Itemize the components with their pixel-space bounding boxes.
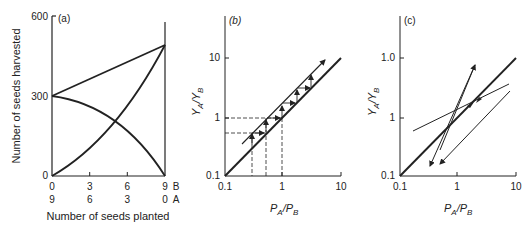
y-axis-label-c: YA/YB xyxy=(366,87,381,116)
panel-label-c: (c) xyxy=(404,15,416,26)
panel-label-b: (b) xyxy=(229,15,241,26)
x-axis-label-b: PA/PB xyxy=(270,202,299,217)
x-axis-label-c: PA/PB xyxy=(444,202,473,217)
panel-label-a: (a) xyxy=(58,13,70,24)
x-tick-a-9: 9 xyxy=(49,194,55,205)
panel-a: 600 300 0 (a) 0 3 6 9 B 9 6 3 0 A Number… xyxy=(10,11,180,222)
y-axis-label-b: YA/YB xyxy=(190,87,205,116)
species-b-curve xyxy=(52,45,165,176)
x-tick-a-3: 3 xyxy=(125,194,131,205)
y-tick-0.1: 0.1 xyxy=(381,170,395,181)
parallel-line xyxy=(440,91,510,164)
y-tick-0: 0 xyxy=(42,170,48,181)
total-harvest-line xyxy=(52,45,165,96)
x-tick-10: 10 xyxy=(335,181,347,192)
diagonal-line xyxy=(225,58,341,176)
x-row-label-a: A xyxy=(173,194,180,205)
x-tick-a-0: 0 xyxy=(162,194,168,205)
x-tick-a-6: 6 xyxy=(87,194,93,205)
y-tick-0.1: 0.1 xyxy=(206,170,220,181)
y-tick-300: 300 xyxy=(31,91,48,102)
y-axis-label-a: Number of seeds harvested xyxy=(10,28,22,163)
y-tick-1: 1 xyxy=(214,112,220,123)
x-tick-1: 1 xyxy=(279,181,285,192)
panel-b: (b) 10 1 0.1 0.1 1 10 PA/PB YA/YB xyxy=(190,15,347,217)
y-tick-600: 600 xyxy=(31,11,48,22)
x-tick-1: 1 xyxy=(454,181,460,192)
x-tick-0.1: 0.1 xyxy=(393,181,407,192)
x-tick-b-6: 6 xyxy=(125,181,131,192)
panel-c: (c) 1.0 1 0.1 0.1 1 10 PA/PB YA/YB xyxy=(366,15,522,217)
diagonal-line xyxy=(400,58,516,176)
x-tick-b-0: 0 xyxy=(49,181,55,192)
x-axis-label-a: Number of seeds planted xyxy=(47,210,170,222)
x-tick-10: 10 xyxy=(510,181,522,192)
y-tick-1.0: 1.0 xyxy=(381,52,395,63)
y-tick-10: 10 xyxy=(209,52,221,63)
x-tick-b-9: 9 xyxy=(162,181,168,192)
figure: 600 300 0 (a) 0 3 6 9 B 9 6 3 0 A Number… xyxy=(0,0,532,229)
x-row-label-b: B xyxy=(173,181,180,192)
offset-line xyxy=(242,60,325,144)
y-tick-1: 1 xyxy=(389,112,395,123)
x-tick-0.1: 0.1 xyxy=(218,181,232,192)
x-tick-b-3: 3 xyxy=(87,181,93,192)
